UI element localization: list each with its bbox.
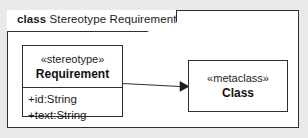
attribute-item: +text:String: [28, 108, 122, 123]
stereotype-class-box[interactable]: «stereotype» Requirement +id:String +tex…: [22, 45, 123, 117]
frame-title: Stereotype Requirement: [46, 13, 176, 25]
metaclass-name-label: Class: [193, 86, 283, 101]
frame-tab-label: class Stereotype Requirement: [17, 13, 176, 25]
frame-name-tab: class Stereotype Requirement: [7, 10, 177, 32]
stereotype-header-compartment: «stereotype» Requirement: [23, 46, 122, 88]
metaclass-keyword-label: «metaclass»: [193, 71, 283, 85]
stereotype-attribute-compartment: +id:String +text:String: [23, 88, 122, 125]
frame-keyword: class: [17, 13, 46, 25]
diagram-canvas: class Stereotype Requirement «stereotype…: [0, 0, 308, 138]
metaclass-box[interactable]: «metaclass» Class: [188, 60, 288, 112]
stereotype-keyword-label: «stereotype»: [27, 52, 118, 66]
stereotype-name-label: Requirement: [27, 67, 118, 82]
attribute-item: +id:String: [28, 92, 122, 107]
metaclass-header-compartment: «metaclass» Class: [189, 61, 287, 111]
